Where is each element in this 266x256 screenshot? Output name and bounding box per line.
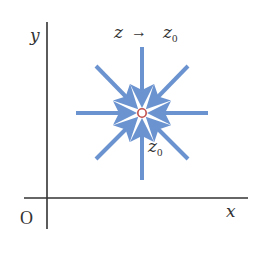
arrow-from-southwest xyxy=(96,121,134,159)
point-z0 xyxy=(138,109,146,117)
svg-text:0: 0 xyxy=(157,146,163,158)
origin-label: O xyxy=(20,208,33,228)
limit-diagram: y x O z → z 0 z 0 xyxy=(0,0,266,256)
arrow-from-northeast xyxy=(150,66,188,105)
svg-text:→: → xyxy=(131,23,147,40)
limit-title: z → z 0 xyxy=(113,22,178,44)
arrow-from-northwest xyxy=(96,66,134,105)
x-axis-label: x xyxy=(226,201,236,221)
svg-text:0: 0 xyxy=(172,32,178,44)
svg-text:z: z xyxy=(113,22,124,42)
y-axis-label: y xyxy=(29,25,40,45)
point-z0-label: z 0 xyxy=(147,136,163,158)
